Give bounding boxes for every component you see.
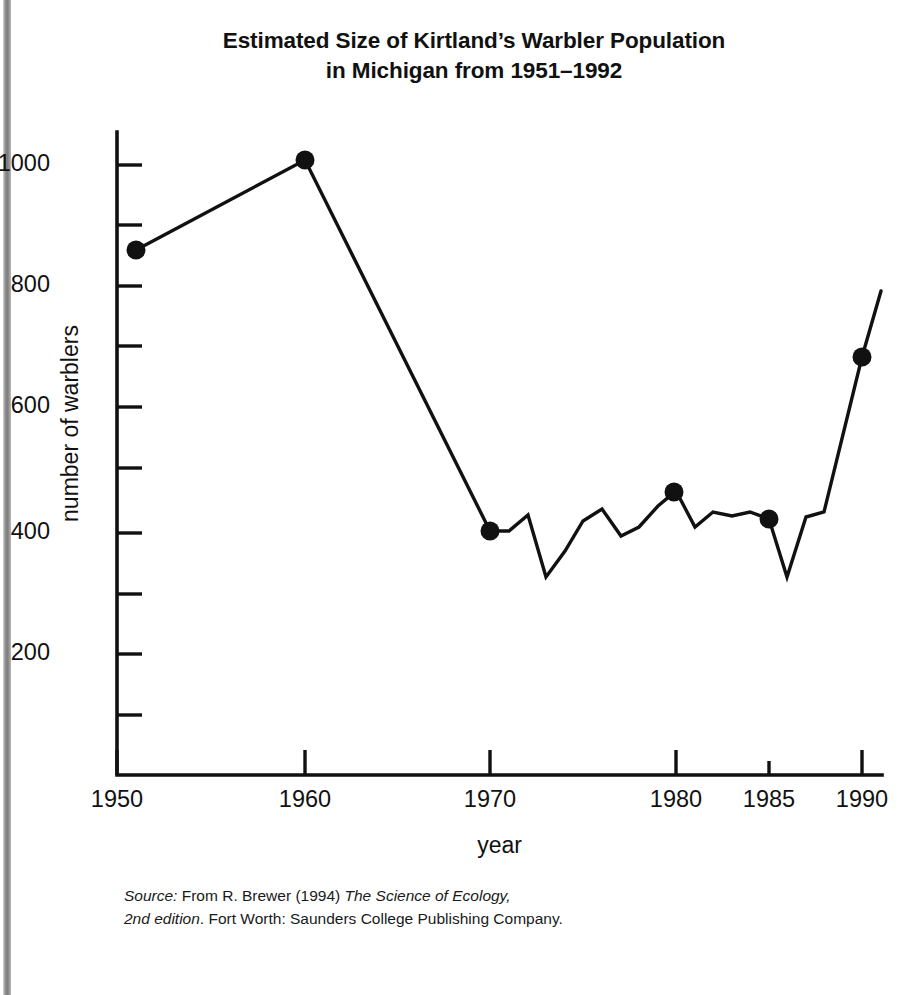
chart-figure: Estimated Size of Kirtland’s Warbler Pop… <box>0 0 912 995</box>
x-tick-label-1960: 1960 <box>245 786 365 813</box>
x-axis-ticks <box>117 750 862 775</box>
axis-lines <box>117 132 882 775</box>
data-point-1990 <box>853 348 872 367</box>
x-tick-label-1950: 1950 <box>57 786 177 813</box>
data-point-1970 <box>481 522 500 541</box>
x-tick-label-1970: 1970 <box>430 786 550 813</box>
axes <box>117 132 882 775</box>
source-attribution: From R. Brewer (1994) <box>177 887 344 904</box>
data-point-1951 <box>127 241 146 260</box>
data-point-1980 <box>665 483 684 502</box>
y-axis-title: number of warblers <box>57 294 84 554</box>
data-series-warbler-population <box>127 151 882 578</box>
data-point-1985 <box>760 510 779 529</box>
y-tick-label-1000: 1000 <box>0 150 50 177</box>
source-note: Source: From R. Brewer (1994) The Scienc… <box>124 884 563 930</box>
plot-area: 1000 800 600 400 200 1950 1960 1970 1980… <box>0 0 912 995</box>
y-tick-label-800: 800 <box>0 271 50 298</box>
y-tick-label-600: 600 <box>0 392 50 419</box>
data-point-markers <box>127 151 872 541</box>
source-publisher: . Fort Worth: Saunders College Publishin… <box>200 910 563 927</box>
y-axis-major-ticks <box>117 165 142 654</box>
source-note-line-1: Source: From R. Brewer (1994) The Scienc… <box>124 884 563 907</box>
source-label: Source: <box>124 887 177 904</box>
y-axis-minor-ticks <box>117 225 142 715</box>
source-note-line-2: 2nd edition. Fort Worth: Saunders Colleg… <box>124 907 563 930</box>
source-work-title: The Science of Ecology, <box>345 887 511 904</box>
x-axis-title: year <box>117 832 882 859</box>
source-edition: 2nd edition <box>124 910 200 927</box>
y-tick-label-400: 400 <box>0 518 50 545</box>
data-point-1960 <box>296 151 315 170</box>
x-tick-label-1990: 1990 <box>802 786 912 813</box>
y-tick-label-200: 200 <box>0 639 50 666</box>
